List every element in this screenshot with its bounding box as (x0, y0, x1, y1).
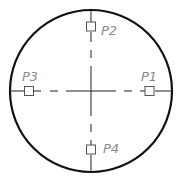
label-p2: P2 (101, 23, 117, 38)
point-marker-p2 (87, 22, 96, 31)
point-marker-p3 (25, 87, 34, 96)
label-p4: P4 (103, 141, 119, 156)
label-p3: P3 (22, 69, 38, 84)
point-marker-p1 (145, 87, 154, 96)
point-marker-p4 (87, 145, 96, 154)
label-p1: P1 (141, 69, 157, 84)
diagram-canvas: P1 P2 P3 P4 (0, 0, 179, 187)
